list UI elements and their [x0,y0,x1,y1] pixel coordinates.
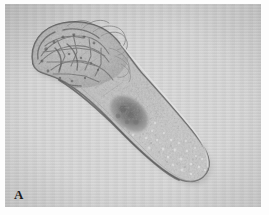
field-illumination-gradient [5,4,261,207]
figure-panel: A [0,0,269,215]
panel-label: A [14,188,23,201]
micrograph-image: A [5,4,261,207]
